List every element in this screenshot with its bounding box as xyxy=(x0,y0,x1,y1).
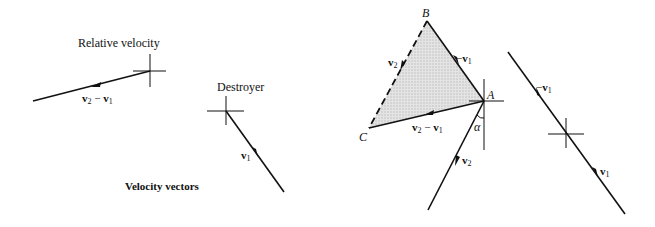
point-c-label: C xyxy=(359,130,368,144)
far-right-vector-group: −v1 v1 xyxy=(508,52,625,214)
far-right-crosshair-icon xyxy=(548,118,584,148)
destroyer-group: Destroyer v1 xyxy=(207,80,284,192)
alpha-angle-label: α xyxy=(474,120,481,134)
relative-velocity-group: Relative velocity v2 − v1 xyxy=(33,36,166,106)
figure-caption: Velocity vectors xyxy=(125,180,200,192)
destroyer-crosshair-icon xyxy=(207,96,244,125)
velocity-vectors-diagram: Relative velocity v2 − v1 Destroyer v1 V… xyxy=(0,0,655,227)
relative-velocity-title: Relative velocity xyxy=(78,36,160,50)
point-b-label: B xyxy=(422,6,430,20)
point-a-label: A xyxy=(486,88,495,102)
edge-ac-label: v2 − v1 xyxy=(412,121,443,135)
edge-bc-label: v2 xyxy=(388,56,398,70)
destroyer-title: Destroyer xyxy=(217,80,264,94)
v2-vector-label: v2 xyxy=(462,154,472,168)
far-right-upper-label: −v1 xyxy=(536,81,552,95)
far-right-lower-label: v1 xyxy=(600,165,610,179)
destroyer-vector-label: v1 xyxy=(241,149,251,163)
edge-ba-label: −v1 xyxy=(456,52,472,66)
vector-triangle-group: B A C −v1 v2 v2 − v1 v2 α xyxy=(359,6,504,210)
relative-velocity-vector-label: v2 − v1 xyxy=(82,92,113,106)
shaded-triangle xyxy=(369,21,484,128)
alpha-angle-arc xyxy=(477,115,484,118)
relative-velocity-arrowhead-icon xyxy=(91,82,101,87)
